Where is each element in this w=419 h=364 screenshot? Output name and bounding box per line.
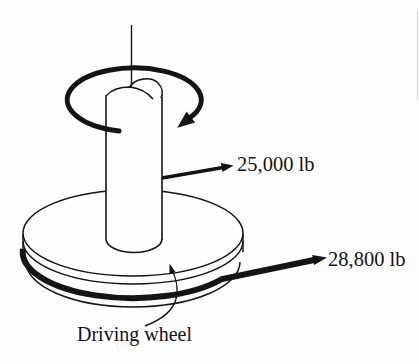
driving-wheel-disc [23, 190, 327, 307]
upper-force-shaft-line [162, 168, 223, 179]
upper-force-label: 25,000 lb [237, 153, 314, 175]
driving-wheel-figure: 25,000 lb 28,800 lb Driving wheel [0, 0, 419, 364]
cylinder-body [106, 84, 162, 252]
lower-force-arrowhead-icon [312, 255, 327, 265]
diagram-svg: 25,000 lb 28,800 lb Driving wheel [0, 0, 419, 364]
shaft-cylinder [106, 79, 162, 253]
lower-force-label: 28,800 lb [328, 248, 405, 270]
wheel-caption-label: Driving wheel [77, 323, 192, 346]
upper-force-arrow [162, 163, 234, 178]
upper-force-arrowhead-icon [221, 163, 234, 172]
